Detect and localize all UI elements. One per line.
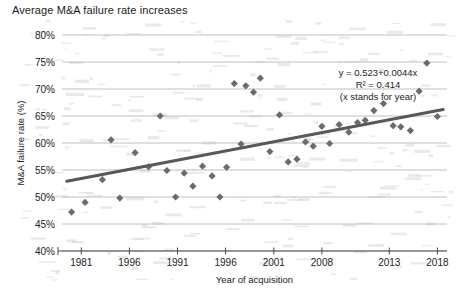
data-point [108, 136, 115, 143]
y-axis-title: M&A failure rate (%) [15, 101, 26, 186]
data-point [242, 82, 249, 89]
y-tick-80: 80% [35, 30, 55, 41]
annotation-r-squared: R² = 0.414 [356, 79, 401, 90]
x-axis-title: Year of acquisition [216, 274, 293, 285]
data-point [189, 183, 196, 190]
x-tick-2018: 2018 [426, 257, 449, 268]
x-tick-2013: 2013 [378, 257, 401, 268]
scatter-plot: 80%75%70%65%60%55%50%45%40% 198119961991… [0, 0, 460, 291]
data-point [310, 143, 317, 150]
data-point [285, 158, 292, 165]
data-point [293, 156, 300, 163]
y-tick-45: 45% [35, 219, 55, 230]
x-tick-1981: 1981 [70, 257, 93, 268]
data-point [163, 167, 170, 174]
chart-figure: Average M&A failure rate increases 80%75… [0, 0, 460, 291]
y-tick-75: 75% [35, 57, 55, 68]
data-point [209, 172, 216, 179]
scan-noise [20, 20, 455, 281]
data-point [370, 107, 377, 114]
annotation-equation: y = 0.523+0.0044x [339, 67, 418, 78]
x-tick-1996: 1996 [214, 257, 237, 268]
y-tick-40: 40% [35, 246, 55, 257]
data-point [231, 80, 238, 87]
x-tick-1996: 1996 [118, 257, 141, 268]
data-point [318, 123, 325, 130]
data-point [116, 195, 123, 202]
data-point [423, 60, 430, 67]
x-tick-2001: 2001 [263, 257, 286, 268]
y-tick-55: 55% [35, 165, 55, 176]
trendline [67, 110, 443, 182]
data-point [397, 123, 404, 130]
data-point [181, 170, 188, 177]
y-tick-50: 50% [35, 192, 55, 203]
regression-trendline [67, 110, 443, 182]
data-point [345, 129, 352, 136]
y-axis-tick-labels: 80%75%70%65%60%55%50%45%40% [35, 30, 55, 257]
data-point [216, 193, 223, 200]
data-point [257, 75, 264, 82]
x-tick-1991: 1991 [166, 257, 189, 268]
y-tick-70: 70% [35, 84, 55, 95]
y-tick-60: 60% [35, 138, 55, 149]
data-point [407, 127, 414, 134]
data-point [199, 163, 206, 170]
data-point [172, 193, 179, 200]
regression-annotation: y = 0.523+0.0044xR² = 0.414(x stands for… [339, 67, 418, 102]
axis-titles: Year of acquisitionM&A failure rate (%) [15, 101, 293, 286]
data-point [266, 148, 273, 155]
annotation-note: (x stands for year) [340, 91, 417, 102]
x-tick-2008: 2008 [311, 257, 334, 268]
data-point [434, 113, 441, 120]
data-point [390, 122, 397, 129]
x-axis [58, 247, 447, 255]
data-point [250, 89, 257, 96]
data-point [82, 199, 89, 206]
y-tick-65: 65% [35, 111, 55, 122]
data-point [326, 140, 333, 147]
